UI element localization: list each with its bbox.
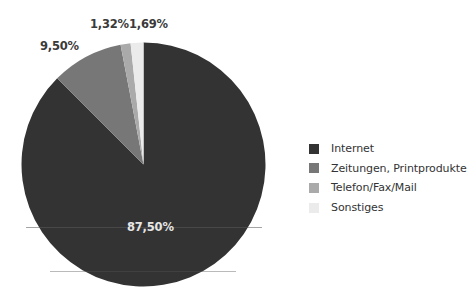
- legend-swatch-icon: [309, 144, 319, 154]
- legend-label: Telefon/Fax/Mail: [331, 181, 417, 194]
- slice-label-sonstiges: 1,69%: [129, 17, 168, 31]
- legend-swatch-icon: [309, 183, 319, 193]
- legend-swatch-icon: [309, 203, 319, 213]
- legend-item-sonstiges: Sonstiges: [309, 198, 474, 218]
- legend-swatch-icon: [309, 163, 319, 173]
- legend-item-internet: Internet: [309, 139, 474, 159]
- pie-slices: [22, 43, 266, 287]
- slice-label-zeitungen: 9,50%: [40, 39, 79, 53]
- legend-label: Internet: [331, 142, 374, 155]
- legend-item-telefon: Telefon/Fax/Mail: [309, 178, 474, 198]
- legend-label: Sonstiges: [331, 201, 383, 214]
- chart-legend: Internet Zeitungen, Printprodukte Telefo…: [309, 139, 474, 217]
- slice-label-internet: 87,50%: [127, 220, 174, 234]
- legend-label: Zeitungen, Printprodukte: [331, 162, 467, 175]
- legend-item-zeitungen: Zeitungen, Printprodukte: [309, 159, 474, 179]
- slice-label-telefon: 1,32%: [90, 17, 129, 31]
